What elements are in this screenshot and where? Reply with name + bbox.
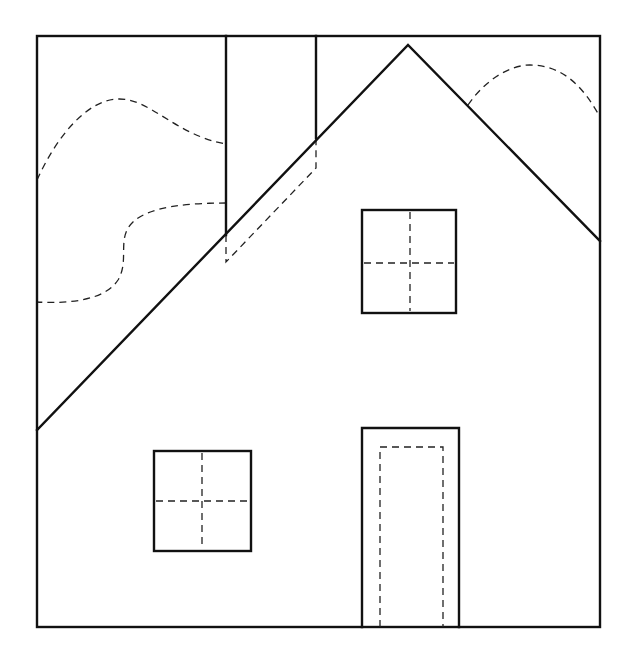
house-drawing [0,0,634,657]
door [362,428,459,627]
chimney-hidden-base [226,138,316,262]
chimney [226,36,316,235]
roof [37,45,600,430]
door-inner-panel [380,447,443,627]
right-hill-line [468,65,600,117]
lower-window [154,451,251,551]
left-upper-hill-line [37,99,226,180]
picture-frame [37,36,600,627]
left-lower-hill-line [37,203,226,302]
upper-window [362,210,456,313]
